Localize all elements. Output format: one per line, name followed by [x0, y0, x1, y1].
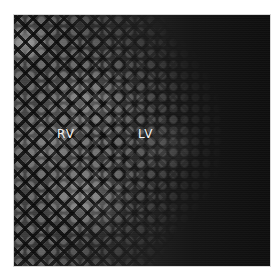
lv-label: LV	[138, 128, 154, 140]
rv-label: RV	[57, 128, 75, 140]
mri-image: RV LV	[14, 15, 270, 266]
